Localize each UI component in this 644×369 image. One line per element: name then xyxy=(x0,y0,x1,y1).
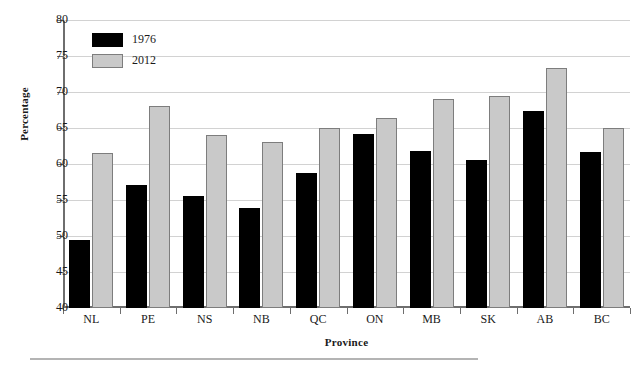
bar-PE-1976 xyxy=(126,185,147,308)
legend-swatch-icon-2012 xyxy=(92,54,123,68)
y-tick-label: 70 xyxy=(22,85,68,97)
x-tick-label-NB: NB xyxy=(231,312,291,327)
gridline xyxy=(63,20,630,21)
x-tick-label-NS: NS xyxy=(175,312,235,327)
bar-ON-2012 xyxy=(376,118,397,308)
y-tick-label: 50 xyxy=(22,229,68,241)
y-tick-label: 55 xyxy=(22,193,68,205)
x-tick-label-QC: QC xyxy=(288,312,348,327)
gridline xyxy=(63,128,630,129)
chart-legend: 1976 2012 xyxy=(92,29,192,71)
bar-MB-1976 xyxy=(410,151,431,308)
x-tick-label-AB: AB xyxy=(515,312,575,327)
y-tick-label: 65 xyxy=(22,121,68,133)
bar-NB-2012 xyxy=(262,142,283,308)
bar-BC-2012 xyxy=(603,128,624,308)
bar-chart: Percentage 404550556065707580 NLPENSNBQC… xyxy=(0,0,644,369)
gridline xyxy=(63,200,630,201)
bar-NL-1976 xyxy=(69,240,90,308)
bar-NB-1976 xyxy=(239,208,260,308)
bar-NL-2012 xyxy=(92,153,113,308)
footer-divider xyxy=(30,358,478,360)
bar-MB-2012 xyxy=(433,99,454,308)
legend-entry-1976: 1976 xyxy=(92,29,192,50)
bar-SK-1976 xyxy=(466,160,487,308)
bar-PE-2012 xyxy=(149,106,170,308)
bar-QC-2012 xyxy=(319,128,340,308)
bar-NS-2012 xyxy=(206,135,227,308)
legend-label-2012: 2012 xyxy=(132,53,156,68)
x-tick-label-PE: PE xyxy=(118,312,178,327)
bar-ON-1976 xyxy=(353,134,374,308)
bar-BC-1976 xyxy=(580,152,601,308)
bar-NS-1976 xyxy=(183,196,204,308)
gridline xyxy=(63,272,630,273)
y-axis-title: Percentage xyxy=(18,54,30,174)
y-tick-label: 45 xyxy=(22,265,68,277)
y-tick-label: 60 xyxy=(22,157,68,169)
x-tick-label-BC: BC xyxy=(572,312,632,327)
x-tick-label-MB: MB xyxy=(402,312,462,327)
legend-swatch-icon-1976 xyxy=(92,33,123,47)
y-tick-label: 80 xyxy=(22,13,68,25)
legend-label-1976: 1976 xyxy=(132,32,156,47)
bar-QC-1976 xyxy=(296,173,317,308)
legend-entry-2012: 2012 xyxy=(92,50,192,71)
gridline xyxy=(63,236,630,237)
x-axis-title: Province xyxy=(63,336,630,348)
y-tick-label: 75 xyxy=(22,49,68,61)
bar-AB-2012 xyxy=(546,68,567,308)
x-tick-label-SK: SK xyxy=(458,312,518,327)
x-tick-label-NL: NL xyxy=(61,312,121,327)
gridline xyxy=(63,164,630,165)
bar-SK-2012 xyxy=(489,96,510,308)
gridline xyxy=(63,92,630,93)
bar-AB-1976 xyxy=(523,111,544,308)
x-tick-label-ON: ON xyxy=(345,312,405,327)
